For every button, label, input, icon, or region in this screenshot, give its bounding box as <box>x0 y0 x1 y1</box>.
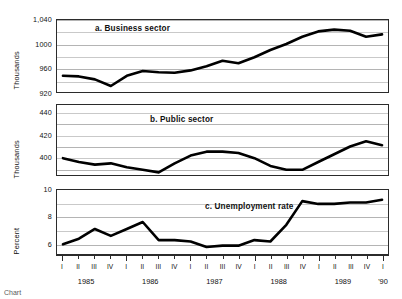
x-axis-year-label: 1986 <box>142 277 158 286</box>
panel-c-title: c. Unemployment rate <box>205 202 294 211</box>
x-axis: IIIIIIIVIIIIIIIVIIIIIIIVIIIIIIIVIIIIIIIV… <box>56 255 389 295</box>
figure-caption: Chart <box>4 289 21 296</box>
panel-b-line <box>57 105 388 175</box>
panel-b-ylabel: Thousands <box>12 119 21 179</box>
x-axis-tick <box>62 255 63 261</box>
panel-c-ytick-10: 10 <box>18 185 52 194</box>
x-axis-quarter-label: IV <box>107 263 113 270</box>
x-axis-quarter-label: I <box>125 263 127 270</box>
panel-b-ytick-440: 440 <box>18 108 52 117</box>
x-axis-year-label: 1985 <box>78 277 94 286</box>
x-axis-quarter-label: II <box>269 263 273 270</box>
panel-a-ytick-1040: 1,040 <box>18 15 52 24</box>
x-axis-quarter-label: III <box>348 263 354 270</box>
x-axis-tick <box>383 255 384 261</box>
x-axis-tick <box>94 255 95 259</box>
x-axis-year-label: 1987 <box>206 277 222 286</box>
panel-c-plot-area <box>56 189 389 255</box>
panel-b-plot-area <box>56 104 389 176</box>
x-axis-tick <box>223 255 224 259</box>
x-axis-quarter-label: III <box>220 263 226 270</box>
x-axis-quarter-label: IV <box>300 263 306 270</box>
x-axis-quarter-label: I <box>189 263 191 270</box>
x-axis-tick <box>271 255 272 259</box>
x-axis-year-label: 1988 <box>270 277 286 286</box>
x-axis-quarter-label: IV <box>235 263 241 270</box>
x-axis-tick <box>351 255 352 259</box>
x-axis-tick <box>158 255 159 259</box>
panel-a-title: a. Business sector <box>95 24 170 33</box>
x-axis-quarter-label: II <box>205 263 209 270</box>
x-axis-tick <box>174 255 175 259</box>
x-axis-tick <box>78 255 79 259</box>
x-axis-year-label: '90 <box>378 277 388 286</box>
x-axis-tick <box>367 255 368 259</box>
panel-c-ytick-6: 6 <box>18 239 52 248</box>
panel-b-ytick-400: 400 <box>18 153 52 162</box>
x-axis-quarter-label: IV <box>364 263 370 270</box>
x-axis-quarter-label: I <box>254 263 256 270</box>
x-axis-tick <box>206 255 207 259</box>
x-axis-tick <box>319 255 320 261</box>
x-axis-quarter-label: IV <box>171 263 177 270</box>
x-axis-quarter-label: I <box>61 263 63 270</box>
x-axis-tick <box>126 255 127 261</box>
panel-a-ytick-920: 920 <box>18 89 52 98</box>
x-axis-quarter-label: III <box>156 263 162 270</box>
x-axis-tick <box>335 255 336 259</box>
panel-b-title: b. Public sector <box>150 115 213 124</box>
x-axis-quarter-label: III <box>284 263 290 270</box>
x-axis-quarter-label: III <box>91 263 97 270</box>
figure-three-panel-chart: Thousands 1,040 1000 960 920 a. Business… <box>0 0 402 299</box>
x-axis-year-label: 1989 <box>335 277 351 286</box>
x-axis-tick <box>110 255 111 259</box>
x-axis-tick <box>303 255 304 259</box>
x-axis-tick <box>142 255 143 259</box>
panel-c-line <box>57 190 388 254</box>
x-axis-quarter-label: I <box>382 263 384 270</box>
panel-c-ytick-8: 8 <box>18 212 52 221</box>
x-axis-quarter-label: II <box>76 263 80 270</box>
x-axis-quarter-label: II <box>333 263 337 270</box>
x-axis-tick <box>190 255 191 261</box>
panel-a-ytick-960: 960 <box>18 64 52 73</box>
x-axis-tick <box>239 255 240 259</box>
x-axis-quarter-label: II <box>140 263 144 270</box>
panel-a-ytick-1000: 1000 <box>18 39 52 48</box>
x-axis-tick <box>287 255 288 259</box>
x-axis-quarter-label: I <box>318 263 320 270</box>
panel-b-ytick-420: 420 <box>18 130 52 139</box>
x-axis-tick <box>255 255 256 261</box>
